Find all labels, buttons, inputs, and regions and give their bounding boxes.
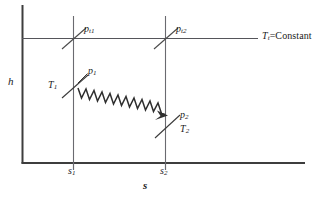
annotation-t2: T2	[180, 124, 189, 135]
annotation-t2-sub: 2	[186, 127, 190, 135]
x-tick-group	[74, 163, 166, 170]
annotation-pt1-sub: t1	[89, 27, 94, 35]
annotation-pt2: pt2	[176, 24, 187, 35]
x-tick-label-s2: s2	[160, 166, 168, 177]
annotation-pt2-sub: t2	[181, 27, 186, 35]
annotation-t1: T1	[48, 80, 57, 91]
annotation-tt-tail: =Constant	[270, 30, 312, 41]
annotation-p1-sub: 1	[93, 69, 97, 77]
hs-diagram: h s s1 s2 pt1 pt2 p1 T1 p2 T2 Tt=Constan…	[0, 0, 321, 198]
y-axis-label: h	[8, 76, 14, 87]
x-tick-label-s2-sub: 2	[164, 169, 168, 177]
annotation-p2: p2	[180, 110, 189, 121]
annotation-pt1: pt1	[84, 24, 95, 35]
process-zigzag-line	[78, 88, 165, 115]
state-point-1-marker	[62, 75, 88, 98]
annotation-p1: p1	[88, 66, 97, 77]
x-axis-label: s	[143, 180, 147, 191]
p1-leader-line	[78, 74, 88, 84]
annotation-t1-sub: 1	[54, 83, 58, 91]
x-tick-label-s1-sub: 1	[72, 169, 76, 177]
annotation-p2-sub: 2	[185, 113, 189, 121]
state-1-slash	[62, 75, 88, 98]
x-tick-label-s1: s1	[68, 166, 76, 177]
axis-group	[22, 5, 306, 164]
annotation-tt-constant: Tt=Constant	[262, 31, 312, 42]
